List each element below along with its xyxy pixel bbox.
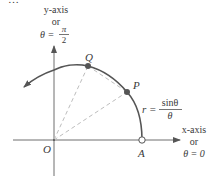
x-axis-label-line2: or [190, 136, 199, 147]
label-q: Q [85, 51, 93, 63]
dashed-line-o-p [54, 92, 127, 140]
point-q [85, 63, 91, 69]
label-p: P [132, 79, 140, 91]
dashed-line-q-p [88, 66, 127, 92]
y-axis-theta-denominator: 2 [62, 35, 67, 45]
polar-curve-diagram: … Q P O A y-axis or θ = π 2 r = sinθ θ x… [0, 0, 214, 180]
point-origin [53, 139, 55, 141]
point-p [124, 89, 130, 95]
top-cropped-text: … [8, 0, 19, 5]
y-axis-label-line2: or [52, 16, 61, 27]
curve-equation-lhs: r = [142, 103, 156, 115]
label-o: O [43, 143, 51, 155]
point-a [139, 137, 145, 143]
curve-equation-numerator: sinθ [162, 97, 179, 108]
x-axis-label-line1: x-axis [182, 124, 207, 135]
x-axis-label-line3: θ = 0 [183, 148, 205, 159]
dashed-line-o-q [54, 66, 88, 140]
y-axis-label-line1: y-axis [44, 4, 69, 15]
y-axis-theta-numerator: π [62, 24, 67, 34]
y-axis-theta-lhs: θ = [40, 29, 54, 40]
curve-equation-denominator: θ [168, 110, 173, 121]
label-a: A [137, 147, 145, 159]
